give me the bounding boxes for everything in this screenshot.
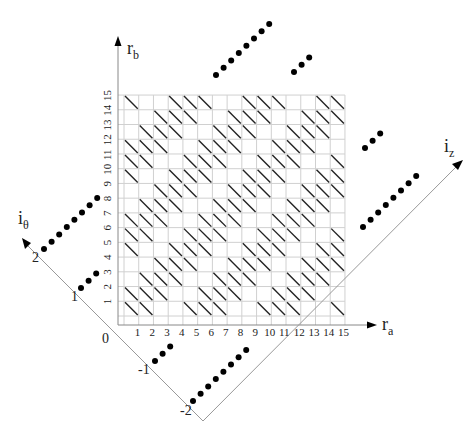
dot-marker xyxy=(78,285,84,291)
hatch-line xyxy=(316,258,329,271)
hatch-line xyxy=(213,126,226,139)
hatch-line xyxy=(302,273,315,286)
hatch-line xyxy=(154,214,167,227)
rb-tick-labels: 123456789101112131415 xyxy=(101,90,113,305)
hatch-line xyxy=(125,155,138,168)
hatch-line xyxy=(213,302,226,315)
hatch-line xyxy=(243,111,256,124)
dot-marker xyxy=(266,21,272,27)
hatch-line xyxy=(302,140,315,153)
dot-marker xyxy=(243,347,249,353)
rb-tick-label: 12 xyxy=(101,134,113,145)
rb-tick-label: 6 xyxy=(101,225,113,231)
hatch-line xyxy=(169,170,182,183)
hatch-line xyxy=(199,288,212,301)
rb-tick-label: 5 xyxy=(101,239,113,245)
ra-tick-label: 2 xyxy=(149,326,155,338)
hatch-line xyxy=(184,229,197,242)
ra-tick-label: 5 xyxy=(194,326,200,338)
dot-marker xyxy=(228,57,234,63)
dot-marker xyxy=(221,65,227,71)
hatch-line xyxy=(302,199,315,212)
hatch-line xyxy=(316,273,329,286)
hatch-line xyxy=(184,170,197,183)
ra-axis-label: ra xyxy=(382,314,394,338)
hatch-line xyxy=(213,140,226,153)
hatch-line xyxy=(199,214,212,227)
hatch-line xyxy=(287,273,300,286)
hatch-line xyxy=(287,302,300,315)
i-theta-axis-label: iθ xyxy=(18,208,29,232)
dot-marker xyxy=(360,224,366,230)
hatch-line xyxy=(316,126,329,139)
hatch-line xyxy=(140,140,153,153)
hatch-line xyxy=(125,96,138,109)
dot-marker xyxy=(406,180,412,186)
ra-tick-label: 7 xyxy=(223,326,229,338)
rb-tick-label: 15 xyxy=(101,90,113,102)
dot-marker xyxy=(87,202,93,208)
hatch-line xyxy=(272,140,285,153)
hatch-line xyxy=(125,302,138,315)
hatch-line xyxy=(199,140,212,153)
hatch-line xyxy=(331,229,344,242)
hatch-line xyxy=(154,288,167,301)
hatch-line xyxy=(154,258,167,271)
ra-tick-label: 6 xyxy=(208,326,214,338)
hatch-line xyxy=(258,155,271,168)
dot-marker xyxy=(398,188,404,194)
hatch-line xyxy=(213,273,226,286)
hatch-line xyxy=(169,126,182,139)
dot-marker xyxy=(390,195,396,201)
hatch-line xyxy=(228,288,241,301)
hatch-line xyxy=(243,184,256,197)
dot-marker xyxy=(259,28,265,34)
hatch-line xyxy=(272,214,285,227)
ra-tick-labels: 123456789101112131415 xyxy=(135,326,350,338)
dot-marker xyxy=(167,343,173,349)
rb-tick-label: 13 xyxy=(101,119,113,131)
hatch-line xyxy=(258,96,271,109)
hatch-line xyxy=(272,229,285,242)
dot-marker xyxy=(370,138,376,144)
dot-marker xyxy=(94,195,100,201)
dot-marker xyxy=(190,398,196,404)
hatch-line xyxy=(213,214,226,227)
hatch-line xyxy=(125,229,138,242)
ra-tick-label: 8 xyxy=(238,326,244,338)
dot-marker xyxy=(383,202,389,208)
dot-marker xyxy=(79,210,85,216)
hatch-line xyxy=(169,199,182,212)
i-theta-tick-labels: 0 1 2 xyxy=(32,250,109,346)
dot-marker xyxy=(251,36,257,42)
hatch-line xyxy=(184,302,197,315)
hatch-line xyxy=(331,184,344,197)
hatch-line xyxy=(258,243,271,256)
hatch-line xyxy=(213,155,226,168)
hatch-line xyxy=(331,96,344,109)
hatch-line xyxy=(154,273,167,286)
hatch-line xyxy=(287,199,300,212)
hatch-line xyxy=(272,170,285,183)
hatch-line xyxy=(199,170,212,183)
i-z-tick-minus1: -1 xyxy=(138,362,150,377)
i-z-axis-label: iz xyxy=(444,136,454,160)
dot-marker xyxy=(198,391,204,397)
hatch-line xyxy=(213,229,226,242)
hatch-line xyxy=(154,199,167,212)
hatch-line xyxy=(331,155,344,168)
rb-tick-label: 1 xyxy=(101,299,113,305)
ra-tick-label: 11 xyxy=(279,326,290,338)
hatch-line xyxy=(243,126,256,139)
hatch-line xyxy=(243,273,256,286)
i-theta-tick-2: 2 xyxy=(32,250,39,265)
hatch-line xyxy=(125,170,138,183)
hatch-line xyxy=(228,258,241,271)
i-z-tick-minus2: -2 xyxy=(180,403,192,418)
dot-marker xyxy=(306,54,312,60)
dot-marker xyxy=(375,209,381,215)
ra-tick-label: 9 xyxy=(253,326,259,338)
hatch-line xyxy=(140,214,153,227)
hatch-line xyxy=(228,111,241,124)
hatch-line xyxy=(287,126,300,139)
